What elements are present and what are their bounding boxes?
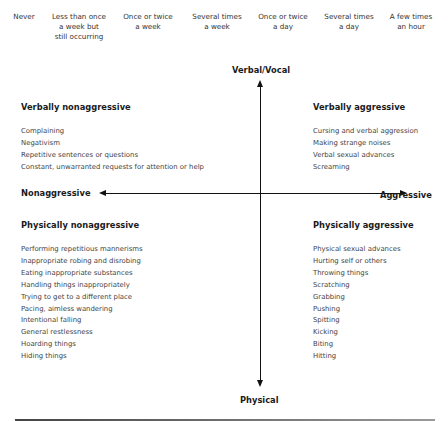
list-item: Pacing, aimless wandering [21,304,143,316]
behavior-list: Performing repetitious mannerisms Inappr… [21,244,143,363]
list-item: Grabbing [313,292,401,304]
list-item: Hoarding things [21,339,143,351]
bottom-divider [15,419,435,421]
list-item: Cursing and verbal aggression [313,126,418,138]
arrow-left-icon [99,190,106,196]
behavior-list: Cursing and verbal aggression Making str… [313,126,418,174]
section-title: Physically aggressive [313,220,414,230]
axis-label-physical: Physical [240,395,279,405]
section-title: Physically nonaggressive [21,220,139,230]
arrow-up-icon [257,80,263,87]
list-item: Constant, unwarranted requests for atten… [21,162,204,174]
list-item: Screaming [313,162,418,174]
frequency-weekly-several: Several times a week [186,12,248,32]
list-item: Making strange noises [313,138,418,150]
list-item: Eating inappropriate substances [21,268,143,280]
frequency-never: Never [6,12,42,22]
list-item: Repetitive sentences or questions [21,150,204,162]
section-title: Verbally nonaggressive [21,102,131,112]
list-item: Scratching [313,280,401,292]
frequency-hourly: A few times an hour [383,12,439,32]
axis-label-aggressive: Aggressive [380,190,432,200]
list-item: Spitting [313,315,401,327]
list-item: Complaining [21,126,204,138]
list-item: Trying to get to a different place [21,292,143,304]
frequency-less-than-weekly: Less than once a week but still occurrin… [48,12,110,42]
list-item: Physical sexual advances [313,244,401,256]
list-item: Hitting [313,351,401,363]
axis-label-verbal-vocal: Verbal/Vocal [232,65,290,75]
list-item: Negativism [21,138,204,150]
behavior-list: Physical sexual advances Hurting self or… [313,244,401,363]
list-item: Performing repetitious mannerisms [21,244,143,256]
list-item: Hurting self or others [313,256,401,268]
list-item: Handling things inappropriately [21,280,143,292]
list-item: Biting [313,339,401,351]
arrow-down-icon [257,380,263,387]
list-item: Verbal sexual advances [313,150,418,162]
list-item: Inappropriate robing and disrobing [21,256,143,268]
list-item: Pushing [313,304,401,316]
list-item: Kicking [313,327,401,339]
horizontal-axis [103,193,403,194]
axis-label-nonaggressive: Nonaggressive [21,188,91,198]
frequency-daily-once-twice: Once or twice a day [252,12,314,32]
vertical-axis [260,84,261,382]
section-title: Verbally aggressive [313,102,405,112]
frequency-weekly-once-twice: Once or twice a week [117,12,179,32]
frequency-daily-several: Several times a day [318,12,380,32]
list-item: Throwing things [313,268,401,280]
list-item: Intentional falling [21,315,143,327]
list-item: General restlessness [21,327,143,339]
behavior-list: Complaining Negativism Repetitive senten… [21,126,204,174]
list-item: Hiding things [21,351,143,363]
